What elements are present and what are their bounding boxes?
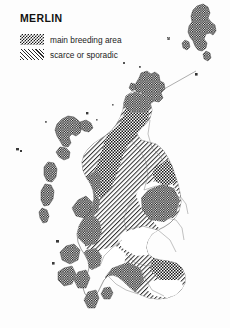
legend-item-scarce-sporadic: scarce or sporadic (20, 49, 150, 60)
map-title: MERLIN (20, 12, 150, 24)
dense-checker-swatch-icon (20, 34, 44, 45)
legend-label-scarce-sporadic: scarce or sporadic (50, 50, 118, 60)
scale-bar (157, 71, 196, 93)
map-legend: MERLIN main breeding area scarce or spor… (20, 12, 150, 64)
merlin-distribution-figure: MERLIN main breeding area scarce or spor… (0, 0, 230, 328)
diagonal-hatch-swatch-icon (20, 49, 44, 60)
legend-item-main-breeding: main breeding area (20, 34, 150, 45)
island-shetland (167, 4, 216, 61)
legend-label-main-breeding: main breeding area (50, 35, 122, 45)
island-st-kilda (16, 148, 22, 152)
